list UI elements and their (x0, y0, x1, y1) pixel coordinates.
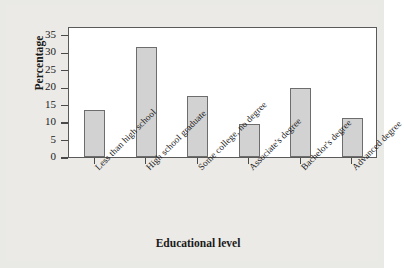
x-axis-title: Educational level (6, 237, 390, 249)
y-axis-tick-mark (61, 88, 68, 89)
y-axis-tick-mark (61, 157, 68, 158)
y-axis-tick-label: 25 (45, 63, 56, 75)
y-axis-tick-label: 30 (45, 45, 56, 57)
y-axis-tick-mark (61, 122, 68, 123)
y-axis-tick-mark (61, 140, 68, 141)
bar (136, 47, 157, 157)
y-axis-tick-label: 20 (45, 80, 56, 92)
y-axis-tick-mark (61, 70, 68, 71)
y-axis-tick-mark (61, 53, 68, 54)
chart-canvas: Percentage 05101520253035 Less than high… (6, 5, 378, 261)
y-axis-tick-label: 15 (45, 98, 56, 110)
y-axis-title: Percentage (33, 8, 45, 118)
bar (84, 110, 105, 157)
y-axis-tick-label: 0 (51, 150, 57, 162)
y-axis-tick-label: 10 (45, 115, 56, 127)
y-axis-tick-mark (61, 35, 68, 36)
y-axis-tick-label: 35 (45, 28, 56, 40)
y-axis-tick-mark (61, 105, 68, 106)
y-axis-tick-label: 5 (51, 133, 57, 145)
